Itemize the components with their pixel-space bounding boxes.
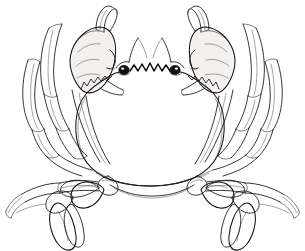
crab-drawing-canvas — [0, 0, 305, 251]
crab-illustration: Crab swimming crab dorsal pen-and-ink li… — [0, 0, 305, 251]
right-eye-highlight — [175, 67, 178, 69]
drawing-background — [0, 0, 305, 251]
right-eye — [170, 65, 180, 74]
left-eye — [119, 65, 129, 74]
left-eye-highlight — [121, 67, 124, 69]
